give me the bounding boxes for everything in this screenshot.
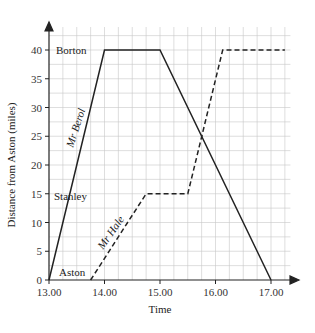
place-label-stanley: Stanley: [54, 190, 87, 202]
y-tick-label: 0: [37, 274, 43, 286]
x-tick-label: 16.00: [203, 286, 228, 298]
x-tick-label: 13.00: [37, 286, 62, 298]
x-tick-label: 15.00: [148, 286, 173, 298]
y-axis-title: Distance from Aston (miles): [5, 102, 18, 227]
y-tick-label: 20: [31, 159, 43, 171]
x-tick-label: 14.00: [92, 286, 117, 298]
place-label-aston: Aston: [59, 266, 86, 278]
x-ticks: 13.0014.0015.0016.0017.00: [37, 280, 284, 298]
place-label-borton: Borton: [56, 44, 87, 56]
x-axis-title: Time: [149, 303, 172, 315]
y-tick-label: 15: [31, 188, 43, 200]
y-tick-label: 35: [31, 73, 43, 85]
y-tick-label: 5: [37, 245, 43, 257]
y-ticks: 0510152025303540: [31, 44, 49, 286]
y-tick-label: 25: [31, 130, 43, 142]
x-tick-label: 17.00: [259, 286, 284, 298]
y-tick-label: 30: [31, 102, 43, 114]
y-tick-label: 10: [31, 217, 43, 229]
axes: [45, 22, 299, 284]
series-label-mr-berol: Mr Berol: [63, 107, 87, 150]
x-axis-arrow-icon: [290, 276, 299, 284]
grid: [49, 27, 290, 280]
y-axis-arrow-icon: [45, 22, 53, 31]
distance-time-graph: 13.0014.0015.0016.0017.00 05101520253035…: [0, 0, 315, 333]
y-tick-label: 40: [31, 44, 43, 56]
